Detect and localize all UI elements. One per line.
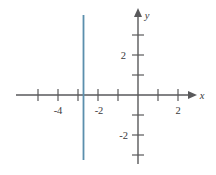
x-tick-label-plus2: 2 — [175, 105, 180, 116]
x-tick-label-minus2: -2 — [95, 105, 104, 116]
y-tick-label-minus2: -2 — [119, 130, 128, 141]
y-tick-label-plus2: 2 — [121, 50, 126, 61]
x-axis-arrowhead — [188, 91, 197, 99]
y-axis-arrowhead — [134, 8, 142, 17]
x-tick-label-minus4: -4 — [54, 105, 63, 116]
graph-figure: -4 -2 2 2 -2 x y — [0, 0, 216, 175]
coordinate-plane-svg: -4 -2 2 2 -2 x y — [0, 0, 216, 175]
x-axis-name-label: x — [199, 90, 205, 101]
y-axis-name-label: y — [144, 10, 150, 21]
